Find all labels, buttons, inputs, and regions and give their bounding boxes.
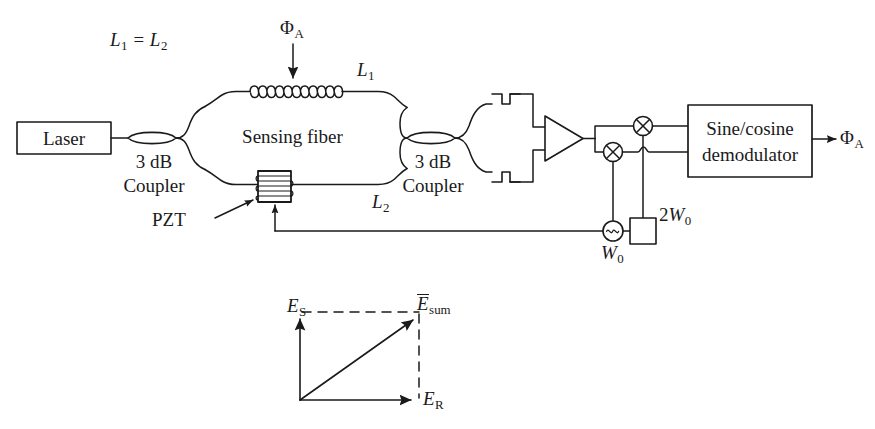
coupler-left-upper-branch (176, 107, 205, 139)
coupler-right-body (407, 132, 455, 143)
photodetector-upper (492, 94, 520, 104)
demodulator-box (688, 105, 812, 177)
vector-er-label: ER (423, 389, 444, 412)
pzt-pointer-arrow (215, 200, 253, 218)
path-equality-text: L1 = L2 (110, 29, 167, 50)
frequency-doubler-box (630, 218, 656, 244)
upper-arm-fiber-left (205, 92, 250, 107)
vector-esum-arrow (300, 320, 413, 400)
amplifier-triangle (545, 116, 583, 161)
coupler-left-body (128, 132, 176, 143)
mixer-lower-output (623, 147, 689, 152)
coupler-right-input-upper (400, 108, 407, 139)
vector-es-label: ES (287, 296, 306, 319)
amp-branch-lower (595, 139, 604, 153)
path-equality-label: L1 = L2 (110, 30, 167, 53)
detector-wire-upper (510, 94, 545, 127)
output-label: ΦA (840, 128, 864, 151)
sensing-fiber-label: Sensing fiber (205, 127, 380, 146)
upper-arm-fiber-right (342, 92, 407, 108)
coupler-right-label-line1: 3 dB (376, 152, 490, 171)
upper-arm-label: L1 (357, 60, 375, 83)
pzt-label: PZT (152, 210, 186, 229)
figure-canvas: L1 = L2 ΦA L1 L2 Laser 3 dB Coupler Sens… (0, 0, 875, 429)
doubler-label: 2W0 (659, 205, 691, 228)
oscillator-label: W0 (601, 243, 624, 266)
amp-branch-upper (595, 126, 633, 139)
demodulator-label-line1: Sine/cosine (688, 119, 812, 138)
lower-arm-fiber-left (205, 170, 258, 185)
demodulator-label-line2: demodulator (688, 145, 812, 164)
measurand-label: ΦA (280, 18, 304, 41)
coupler-left-label-line1: 3 dB (97, 152, 211, 171)
circuit-diagram-svg (0, 0, 875, 429)
detector-wire-lower (510, 150, 545, 182)
lower-arm-label: L2 (372, 192, 390, 215)
coupler-right-label-line2: Coupler (376, 176, 490, 195)
photodetector-lower (492, 172, 520, 182)
vector-esum-label: Esum (417, 294, 451, 317)
coupler-left-label-line2: Coupler (97, 176, 211, 195)
sensing-fiber-coil (250, 86, 343, 98)
detector-feed-upper (455, 104, 492, 138)
laser-label: Laser (17, 122, 111, 154)
